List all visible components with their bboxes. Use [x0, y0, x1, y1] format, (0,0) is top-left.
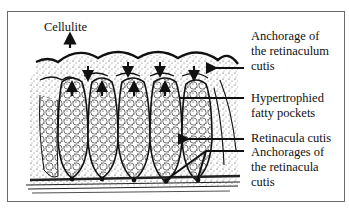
label-retinacula-cutis: Retinacula cutis — [251, 131, 331, 146]
label-fatty-pockets: Hypertrophied fatty pockets — [251, 91, 324, 121]
cellulite-label: Cellulite — [44, 20, 87, 35]
label-anchorages-retinacula: Anchorages of the retinacula cutis — [251, 145, 324, 190]
label-anchorage-retinaculum: Anchorage of the retinaculum cutis — [251, 29, 329, 74]
